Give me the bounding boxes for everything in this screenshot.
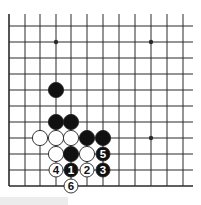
go-board: 541236 [0,0,201,205]
white-stone-2: 2 [80,163,94,177]
move-number-label: 2 [84,164,90,176]
move-number-label: 1 [68,164,75,176]
move-number-label: 6 [68,180,74,192]
black-stone [48,82,63,97]
star-point [149,40,153,44]
white-stone [48,130,63,145]
white-stone-6: 6 [64,179,78,193]
move-number-label: 3 [100,164,106,176]
move-number-label: 4 [53,164,60,176]
black-stone-5: 5 [96,147,110,161]
move-number-label: 5 [100,148,107,160]
white-stone [32,130,47,145]
black-stone [48,114,63,129]
black-stone [95,130,110,145]
white-stone-4: 4 [49,163,63,177]
black-stone [63,114,78,129]
white-stone [48,146,63,161]
white-stone [63,130,78,145]
footer-bar [0,197,68,205]
star-point [149,136,153,140]
black-stone-3: 3 [96,163,110,177]
star-point [54,40,58,44]
white-stone [79,146,94,161]
black-stone [63,146,78,161]
black-stone [79,130,94,145]
black-stone-1: 1 [64,163,78,177]
